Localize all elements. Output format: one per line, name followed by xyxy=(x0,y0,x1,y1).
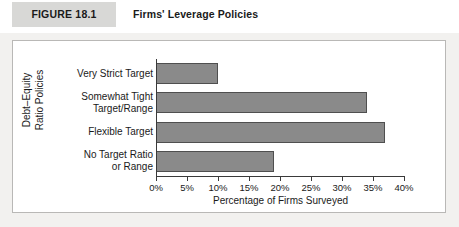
value-axis-origin-line xyxy=(156,59,157,177)
chart-panel: Debt–Equity Ratio Policies Very Strict T… xyxy=(12,40,446,213)
figure-number-badge: FIGURE 18.1 xyxy=(12,2,116,27)
value-axis-tick xyxy=(404,177,405,181)
category-label: Very Strict Target xyxy=(49,68,153,80)
category-axis-labels: Very Strict TargetSomewhat TightTarget/R… xyxy=(49,59,153,176)
value-axis-tick xyxy=(218,177,219,181)
category-label: No Target Ratioor Range xyxy=(49,149,153,173)
value-axis-tick xyxy=(311,177,312,181)
category-label-line: or Range xyxy=(49,161,153,173)
value-axis-tick xyxy=(156,177,157,181)
bar xyxy=(156,63,218,84)
y-axis-title: Debt–Equity Ratio Policies xyxy=(20,45,50,155)
figure-page: FIGURE 18.1 Firms' Leverage Policies Deb… xyxy=(0,0,459,227)
category-label: Somewhat TightTarget/Range xyxy=(49,91,153,115)
value-axis-tick xyxy=(249,177,250,181)
figure-header: FIGURE 18.1 Firms' Leverage Policies xyxy=(0,0,459,33)
category-label-line: No Target Ratio xyxy=(49,149,153,161)
category-label: Flexible Target xyxy=(49,126,153,138)
y-axis-title-line-2: Ratio Policies xyxy=(33,45,46,155)
bar xyxy=(156,92,367,113)
value-axis-tick xyxy=(280,177,281,181)
y-axis-title-line-1: Debt–Equity xyxy=(20,45,33,155)
bar xyxy=(156,151,274,172)
category-label-line: Very Strict Target xyxy=(49,68,153,80)
figure-title: Firms' Leverage Policies xyxy=(133,2,258,27)
category-label-line: Flexible Target xyxy=(49,126,153,138)
category-label-line: Target/Range xyxy=(49,103,153,115)
bar xyxy=(156,122,385,143)
value-axis-tick xyxy=(342,177,343,181)
value-axis-tick xyxy=(187,177,188,181)
value-axis-tick-label: 40% xyxy=(384,182,424,193)
value-axis-tick xyxy=(373,177,374,181)
x-axis-title: Percentage of Firms Surveyed xyxy=(156,195,405,206)
category-label-line: Somewhat Tight xyxy=(49,91,153,103)
plot-area xyxy=(156,59,404,176)
figure-number-label: FIGURE 18.1 xyxy=(12,2,116,27)
